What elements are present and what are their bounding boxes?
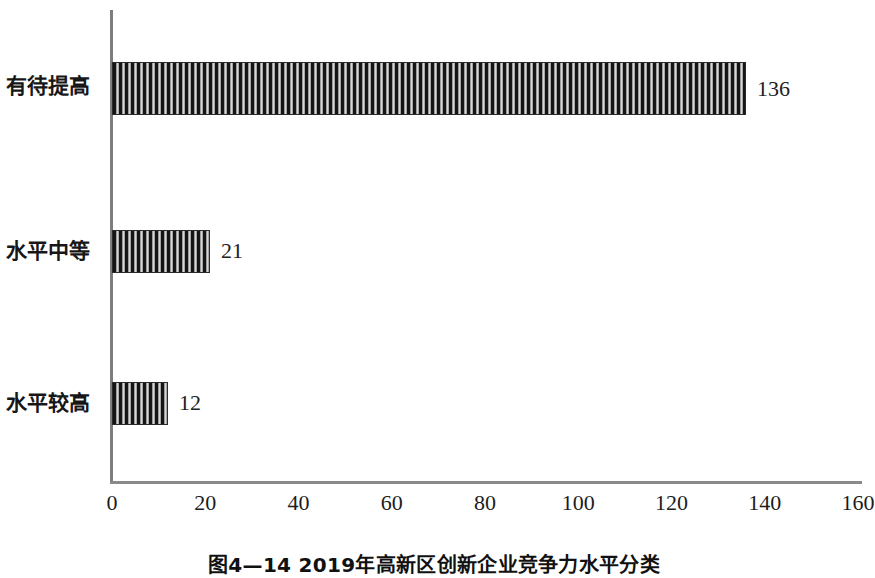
bar-shui-ping-jiao-gao	[112, 382, 168, 425]
x-tick-label: 100	[562, 492, 595, 514]
x-axis-line	[110, 481, 862, 484]
bar-value-label: 21	[221, 240, 243, 262]
x-tick-label: 120	[655, 492, 688, 514]
figure-caption: 图4—14 2019年高新区创新企业竞争力水平分类	[0, 549, 868, 578]
x-tick-label: 80	[474, 492, 496, 514]
category-label: 水平中等	[6, 241, 108, 262]
x-tick-label: 160	[842, 492, 875, 514]
x-tick-label: 0	[107, 492, 118, 514]
bar-value-label: 136	[757, 78, 790, 100]
category-label: 有待提高	[6, 76, 108, 97]
x-tick-label: 40	[288, 492, 310, 514]
bar-you-dai-ti-gao	[112, 62, 746, 115]
category-label: 水平较高	[6, 393, 108, 414]
x-tick-label: 20	[194, 492, 216, 514]
bar-shui-ping-zhong-deng	[112, 230, 210, 273]
bar-value-label: 12	[179, 392, 201, 414]
x-tick-label: 60	[381, 492, 403, 514]
x-tick-label: 140	[748, 492, 781, 514]
